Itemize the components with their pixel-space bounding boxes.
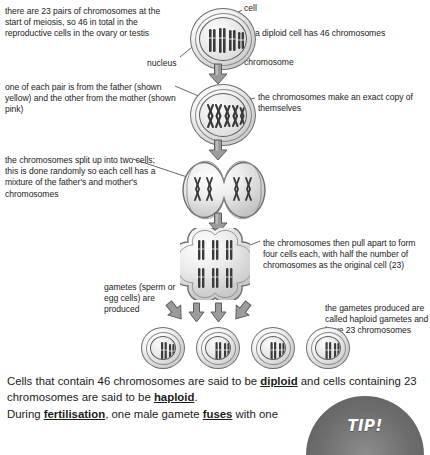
para1-text-c: . <box>194 391 197 403</box>
term-haploid: haploid <box>154 391 195 403</box>
annotation-right-second: the chromosomes make an exact copy of th… <box>258 92 428 114</box>
callout-label-cell: cell <box>244 3 257 14</box>
cell-membrane <box>190 84 256 146</box>
term-diploid: diploid <box>260 375 297 387</box>
duplicated-chromosomes-group <box>200 94 247 137</box>
annotation-left-top: there are 23 pairs of chromosomes at the… <box>5 6 177 40</box>
nucleus <box>150 336 176 360</box>
arrow-gamete-3 <box>210 302 228 323</box>
cell-membrane <box>190 8 256 70</box>
para1-text-a: Cells that contain 46 chromosomes are sa… <box>7 375 260 387</box>
arrow-gamete-1 <box>165 300 185 322</box>
term-fuses: fuses <box>203 408 233 420</box>
arrow-replication <box>207 63 229 85</box>
cell-membrane <box>306 327 350 369</box>
nucleus <box>199 17 247 61</box>
para2-text-c: with one <box>232 408 278 420</box>
arrow-first-division <box>207 139 229 161</box>
annotation-left-second: one of each pair is from the father (sho… <box>5 82 177 116</box>
term-fertilisation: fertilisation <box>44 408 105 420</box>
nucleus <box>205 336 231 360</box>
callout-label-chromosome: chromosome <box>244 57 294 68</box>
two-cell-shape <box>181 160 267 220</box>
four-cell-shape <box>180 228 250 300</box>
cell-membrane <box>251 327 295 369</box>
para2-text-a: During <box>7 408 44 420</box>
annotation-right-first: a diploid cell has 46 chromosomes <box>255 28 430 39</box>
nucleus <box>315 336 341 360</box>
annotation-right-third: the chromosomes then pull apart to form … <box>263 238 430 272</box>
arrow-gamete-2 <box>188 302 206 323</box>
tip-badge-label: TIP! <box>306 417 424 435</box>
cell-membrane <box>196 327 240 369</box>
stage-four-cell <box>180 228 250 304</box>
para2-text-b: , one male gamete <box>105 408 203 420</box>
nucleus <box>199 93 247 137</box>
body-paragraph-2: During fertilisation, one male gamete fu… <box>7 407 307 423</box>
arrow-gamete-4 <box>232 300 252 322</box>
cell-membrane <box>141 327 185 369</box>
callout-label-nucleus: nucleus <box>147 58 177 69</box>
annotation-left-third: the chromosomes split up into two cells;… <box>5 155 165 200</box>
nucleus <box>260 336 286 360</box>
chromosomes-group <box>200 18 247 61</box>
